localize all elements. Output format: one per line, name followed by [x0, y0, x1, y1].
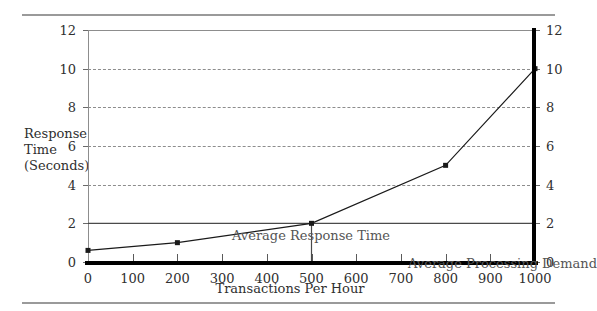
data-point-marker-200 — [175, 240, 180, 245]
y-tick-label-left-6: 6 — [52, 140, 76, 153]
plot-area: Average Response Time Average Processing… — [88, 30, 535, 262]
x-tick-label-500: 500 — [289, 272, 335, 285]
figure-rule-top — [22, 14, 555, 16]
x-tick-label-600: 600 — [333, 272, 379, 285]
y-tick-label-left-10: 10 — [52, 63, 76, 76]
data-point-marker-800 — [443, 163, 448, 168]
data-point-marker-0 — [86, 248, 91, 253]
y-tick-label-right-12: 12 — [546, 24, 570, 37]
x-tick-label-900: 900 — [467, 272, 513, 285]
annotation-average-processing-demand: Average Processing Demand — [408, 256, 597, 271]
y-tick-label-left-4: 4 — [52, 179, 76, 192]
x-tick-label-200: 200 — [154, 272, 200, 285]
y-tick-label-right-10: 10 — [546, 63, 570, 76]
y-tick-label-right-6: 6 — [546, 140, 570, 153]
y-axis-title-line-3: (Seconds) — [24, 158, 90, 174]
y-tick-label-right-8: 8 — [546, 101, 570, 114]
x-tick-label-300: 300 — [199, 272, 245, 285]
y-tick-label-left-0: 0 — [52, 256, 76, 269]
y-tick-label-right-4: 4 — [546, 179, 570, 192]
x-tick-label-700: 700 — [378, 272, 424, 285]
y-tick-label-left-8: 8 — [52, 101, 76, 114]
annotation-average-response-time: Average Response Time — [232, 228, 390, 243]
x-tick-label-800: 800 — [423, 272, 469, 285]
y-tick-label-right-2: 2 — [546, 217, 570, 230]
x-tick-label-100: 100 — [110, 272, 156, 285]
x-tick-label-0: 0 — [65, 272, 111, 285]
y-tick-label-left-2: 2 — [52, 217, 76, 230]
x-tick-label-400: 400 — [244, 272, 290, 285]
x-tick-label-1000: 1000 — [512, 272, 558, 285]
data-point-marker-500 — [309, 221, 314, 226]
figure-rule-bottom — [22, 302, 555, 304]
y-axis-right-line — [532, 28, 536, 265]
y-tick-label-left-12: 12 — [52, 24, 76, 37]
